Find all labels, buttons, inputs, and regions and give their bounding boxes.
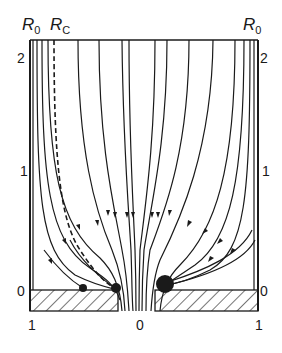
label-r0-left: R0 <box>22 16 40 36</box>
y-tick-left-1: 1 <box>20 164 28 178</box>
y-tick-left-2: 2 <box>17 51 25 65</box>
x-tick-center-0: 0 <box>136 318 144 332</box>
y-tick-right-2: 2 <box>260 51 268 65</box>
y-tick-left-0: 0 <box>17 284 25 298</box>
particle-large <box>156 275 174 293</box>
y-tick-right-0: 0 <box>260 284 268 298</box>
label-r0-right: R0 <box>243 16 261 36</box>
x-tick-right-1: 1 <box>255 318 263 332</box>
particle-medium <box>111 283 121 293</box>
y-tick-right-1: 1 <box>262 164 270 178</box>
label-rc: RC <box>50 16 70 36</box>
streamlines <box>33 40 255 311</box>
particle-small <box>79 284 87 292</box>
x-tick-left-1: 1 <box>28 318 36 332</box>
flow-diagram <box>0 0 282 353</box>
substrate <box>30 290 258 311</box>
